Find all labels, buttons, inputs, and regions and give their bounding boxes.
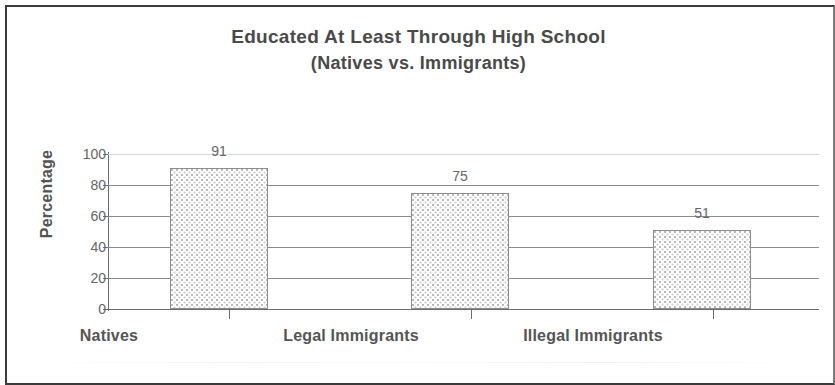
y-tick-label-20: 20 (46, 278, 106, 279)
bar-value-label-legal-immigrants: 75 (430, 168, 490, 184)
y-tick-label-0: 0 (46, 309, 106, 310)
bar-legal-immigrants[interactable] (411, 193, 509, 309)
plot-area: 100 80 60 40 20 0 91 75 51 (108, 154, 819, 309)
chart-title-block: Educated At Least Through High School (N… (7, 23, 830, 77)
scan-artifact (37, 362, 797, 363)
x-category-label-legal-immigrants: Legal Immigrants (231, 327, 471, 345)
y-tick-label-60: 60 (46, 216, 106, 217)
bar-natives[interactable] (170, 168, 268, 309)
y-tick-label-100: 100 (46, 154, 106, 155)
chart-frame: Educated At Least Through High School (N… (5, 5, 835, 385)
chart-title: Educated At Least Through High School (7, 23, 830, 50)
x-category-label-natives: Natives (0, 327, 229, 345)
x-category-label-illegal-immigrants: Illegal Immigrants (473, 327, 713, 345)
bar-value-label-illegal-immigrants: 51 (672, 205, 732, 221)
y-axis-title: Percentage (38, 124, 56, 264)
y-tick-label-80: 80 (46, 185, 106, 186)
bar-value-label-natives: 91 (189, 143, 249, 159)
y-tick-label-40: 40 (46, 247, 106, 248)
bar-illegal-immigrants[interactable] (653, 230, 751, 309)
x-tick-mark-2 (471, 309, 472, 319)
x-tick-mark-1 (229, 309, 230, 319)
x-tick-mark-3 (713, 309, 714, 319)
y-axis-line (108, 152, 109, 311)
chart-subtitle: (Natives vs. Immigrants) (7, 50, 830, 77)
